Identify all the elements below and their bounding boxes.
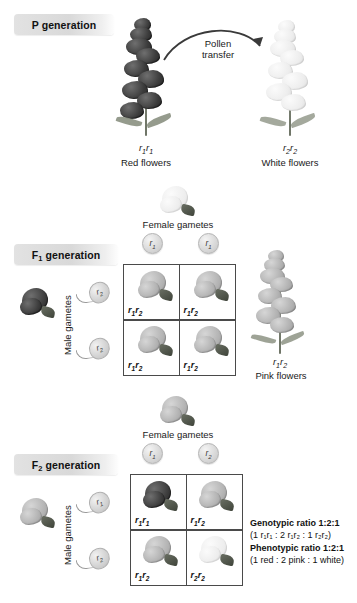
genotypic-ratio-detail: (1 r₁r₁ : 2 r₁r₂ : 1 r₂r₂) [250,529,344,541]
f2-female-gamete-2: r2 [198,443,219,464]
f1-male-parent-flower [20,288,54,318]
petal [194,336,216,353]
p-parent-red-genotype: r1r1 [120,142,172,155]
punnett-cell: r1r2 [124,320,180,375]
f2-female-gametes-label: Female gametes [128,429,228,440]
f2-female-gamete-1: r1 [142,443,163,464]
punnett-cell: r2r2 [187,530,243,585]
sepal [219,554,234,567]
p-parent-white-phenotype: White flowers [248,157,332,168]
f2-male-gamete-1: r1 [80,492,114,512]
sepal [158,344,173,357]
f1-male-gamete-1: r2 [80,282,114,302]
cell-genotype: r1r2 [191,515,205,527]
phenotypic-ratio-heading: Phenotypic ratio 1:2:1 [250,542,344,554]
petal [20,298,42,315]
f1-female-gamete-2: r1 [198,233,219,254]
petal [20,508,42,525]
f2-male-parent-flower [20,498,54,528]
f1-offspring-genotype: r1r2 [254,356,306,369]
cell-genotype: r1r2 [128,305,142,317]
pollen-transfer-label-line1: Pollen [190,38,246,49]
f2-male-gamete-2: r2 [80,548,114,568]
f1-generation-label: F1 generation [14,244,118,265]
cell-flower [199,481,233,511]
cell-flower [138,271,172,301]
cell-flower [143,536,177,566]
sepal [180,414,195,427]
cell-flower [194,271,228,301]
punnett-cell: r1r1 [131,475,187,530]
plant-leaf [251,332,277,345]
p-parent-red-phenotype: Red flowers [108,157,184,168]
petal [194,281,216,298]
punnett-cell: r1r2 [180,320,236,375]
sepal [158,289,173,302]
pollen-transfer-label-line2: transfer [190,49,246,60]
f2-punnett-square: r1r1 r1r2 r1r2 r2r2 [130,474,243,586]
petal [160,406,182,423]
punnett-cell: r1r2 [187,475,243,530]
f1-female-gamete-1: r1 [142,233,163,254]
petal [143,546,165,563]
f1-punnett-square: r1r2 r1r2 r1r2 r1r2 [123,264,236,376]
petal [199,546,221,563]
cell-flower [143,481,177,511]
p-parent-white-plant [262,20,318,136]
f1-female-gametes-label: Female gametes [128,219,228,230]
flower-blob [281,94,306,111]
flower-blob [270,317,294,333]
plant-leaf [280,331,306,345]
f2-generation-label: F2 generation [14,454,118,475]
sepal [40,516,55,529]
cell-genotype: r2r2 [191,570,205,582]
cell-genotype: r1r2 [184,305,198,317]
sepal [180,204,195,217]
f1-generation-label-text: F1 generation [32,249,101,261]
petal [160,196,182,213]
p-parent-white-genotype: r2r2 [264,142,316,155]
punnett-cell: r1r2 [180,265,236,320]
p-generation-label-text: P generation [32,19,97,31]
punnett-cell: r1r2 [131,530,187,585]
f1-female-parent-flower [160,186,194,216]
cell-genotype: r1r2 [135,570,149,582]
sepal [214,344,229,357]
genotypic-ratio-heading: Genotypic ratio 1:2:1 [250,517,344,529]
petal [138,336,160,353]
cell-genotype: r1r2 [128,360,142,372]
f1-offspring-phenotype: Pink flowers [244,370,318,381]
cell-flower [199,536,233,566]
f1-male-gametes-label: Male gametes [62,295,73,355]
f1-offspring-pink-plant [252,250,308,354]
sepal [163,554,178,567]
petal [143,491,165,508]
sepal [40,306,55,319]
petal [199,491,221,508]
plant-leaf [290,113,317,128]
f1-male-gamete-2: r2 [80,338,114,358]
phenotypic-ratio-detail: (1 red : 2 pink : 1 white) [250,554,344,566]
sepal [219,499,234,512]
cell-genotype: r1r2 [184,360,198,372]
f2-female-parent-flower [160,396,194,426]
plant-leaf [146,113,173,128]
cell-genotype: r1r1 [135,515,149,527]
cell-flower [138,326,172,356]
cell-flower [194,326,228,356]
p-generation-label: P generation [14,14,114,35]
f2-male-gametes-label: Male gametes [62,505,73,565]
f2-generation-label-text: F2 generation [32,459,101,471]
petal [138,281,160,298]
sepal [214,289,229,302]
plant-leaf [260,114,287,129]
f2-results-block: Genotypic ratio 1:2:1 (1 r₁r₁ : 2 r₁r₂ :… [250,517,344,567]
punnett-cell: r1r2 [124,265,180,320]
sepal [163,499,178,512]
